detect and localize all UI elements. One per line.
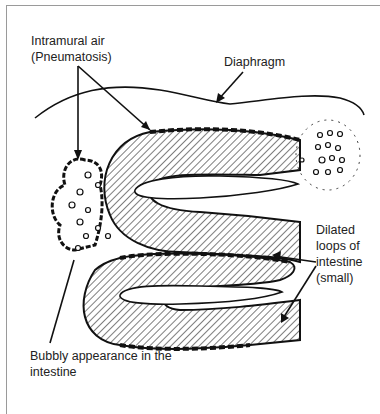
diaphragm-line xyxy=(35,87,364,118)
label-dilated-line2: loops of xyxy=(316,239,360,253)
pointer-intramural-to-upper xyxy=(78,66,150,130)
label-bubbly-line1: Bubbly appearance in the xyxy=(30,349,172,363)
label-bubbly-line2: intestine xyxy=(30,365,77,379)
bubbly-cluster xyxy=(52,159,102,250)
right-cluster-outline xyxy=(296,120,360,190)
label-dilated-line4: (small) xyxy=(316,271,354,285)
right-bubble-cluster xyxy=(300,131,345,175)
label-intramural-line2: (Pneumatosis) xyxy=(31,50,112,64)
label-dilated-line1: Dilated xyxy=(316,223,355,237)
pointer-bubbly xyxy=(50,260,74,343)
label-dilated-loops: Dilated loops of intestine (small) xyxy=(316,222,363,286)
upper-loop-lumen xyxy=(135,176,298,199)
label-diaphragm: Diaphragm xyxy=(224,54,285,70)
label-intramural-air: Intramural air (Pneumatosis) xyxy=(31,33,112,65)
lower-loop-lumen xyxy=(120,286,282,305)
label-dilated-line3: intestine xyxy=(316,255,363,269)
label-bubbly-appearance: Bubbly appearance in the intestine xyxy=(30,348,172,380)
label-intramural-line1: Intramural air xyxy=(31,34,105,48)
